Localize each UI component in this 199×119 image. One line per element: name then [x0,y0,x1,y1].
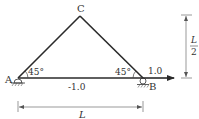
angle-label-b: 45° [115,67,131,77]
dimension-label-half-numerator: L [190,35,197,45]
node-label-c: C [77,3,85,14]
angle-label-a: 45° [28,67,44,77]
node-label-b: B [149,81,156,92]
node-label-a: A [4,74,13,85]
pin-support-icon [11,79,25,86]
truss-canvas: C A B 45° 45° -1.0 1.0 L L 2 [0,0,199,119]
load-label: 1.0 [148,66,163,76]
member-cb [80,16,143,78]
truss-diagram: C A B 45° 45° -1.0 1.0 L L 2 [0,0,199,119]
dimension-label-l: L [78,109,86,119]
roller-support-icon [137,78,149,88]
angle-arc-b [133,71,136,78]
member-force-label-ab: -1.0 [68,82,86,92]
dimension-label-half-denominator: 2 [191,47,197,57]
